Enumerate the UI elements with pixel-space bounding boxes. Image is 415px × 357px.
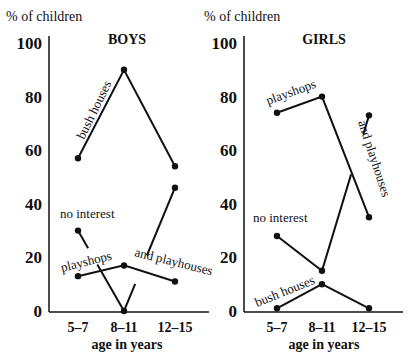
boys-line-playshops: [78, 265, 175, 281]
girls-x-ticks: 5–78–1112–15: [267, 320, 387, 335]
x-tick-label: 8–11: [308, 320, 335, 335]
girls-label-playshops: playshops: [264, 76, 318, 108]
data-point: [274, 233, 280, 239]
boys-label-bush-houses: bush houses: [73, 78, 114, 141]
chart-container: % of children BOYS 020406080100 5–78–111…: [0, 0, 415, 357]
boys-y-ticks: 020406080100: [17, 34, 43, 321]
data-point: [121, 262, 127, 268]
boys-x-ticks: 5–78–1112–15: [68, 320, 193, 335]
y-tick-label: 100: [212, 34, 238, 53]
data-point: [75, 227, 81, 233]
x-tick-label: 5–7: [68, 320, 89, 335]
y-tick-label: 100: [17, 34, 43, 53]
y-tick-label: 0: [34, 302, 43, 321]
x-tick-label: 8–11: [110, 320, 137, 335]
data-point: [274, 305, 280, 311]
data-point: [319, 93, 325, 99]
girls-label-no-interest: no interest: [253, 210, 308, 225]
boys-label-no-interest: no interest: [60, 206, 115, 221]
boys-x-axis-label: age in years: [92, 337, 163, 352]
girls-label-and-playhouses: and playhouses: [355, 118, 394, 199]
girls-y-ticks: 020406080100: [212, 34, 238, 321]
x-tick-label: 12–15: [158, 320, 193, 335]
boys-title: BOYS: [108, 32, 146, 47]
y-tick-label: 60: [220, 141, 237, 160]
chart-svg: % of children BOYS 020406080100 5–78–111…: [0, 0, 415, 357]
girls-title: GIRLS: [302, 32, 346, 47]
data-point: [172, 185, 178, 191]
x-tick-label: 12–15: [352, 320, 387, 335]
y-tick-label: 0: [229, 302, 238, 321]
data-point: [172, 163, 178, 169]
girls-x-axis-label: age in years: [289, 337, 360, 352]
data-point: [319, 281, 325, 287]
data-point: [366, 214, 372, 220]
data-point: [75, 155, 81, 161]
data-point: [172, 278, 178, 284]
data-point: [319, 268, 325, 274]
girls-panel: % of children GIRLS 020406080100 5–78–11…: [204, 9, 403, 352]
boys-line-no-interest-b: [97, 264, 135, 311]
boys-y-axis-label: % of children: [6, 9, 82, 24]
y-tick-label: 60: [25, 141, 42, 160]
data-point: [121, 67, 127, 73]
y-tick-label: 20: [25, 248, 42, 267]
girls-line-playshops: [277, 97, 369, 218]
y-tick-label: 40: [25, 195, 42, 214]
y-tick-label: 80: [25, 88, 42, 107]
girls-y-axis-label: % of children: [204, 9, 280, 24]
data-point: [75, 273, 81, 279]
x-tick-label: 5–7: [267, 320, 288, 335]
data-point: [121, 308, 127, 314]
boys-panel: % of children BOYS 020406080100 5–78–111…: [6, 9, 214, 352]
data-point: [274, 109, 280, 115]
boys-line-no-interest-c: [147, 188, 175, 256]
y-tick-label: 20: [220, 248, 237, 267]
y-tick-label: 40: [220, 195, 237, 214]
data-point: [366, 305, 372, 311]
y-tick-label: 80: [220, 88, 237, 107]
